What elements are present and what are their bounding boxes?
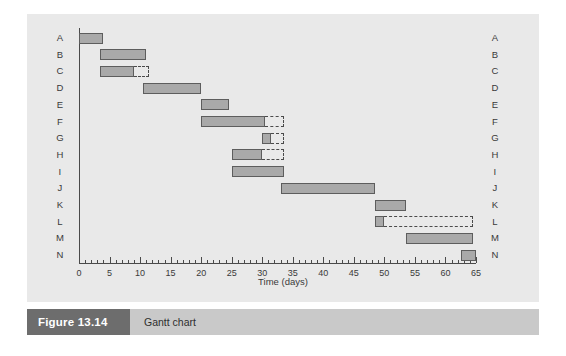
x-tick-minor bbox=[409, 260, 410, 264]
y-axis-line bbox=[79, 28, 80, 263]
x-tick-label: 15 bbox=[160, 268, 182, 278]
x-tick-major bbox=[354, 257, 355, 263]
x-tick-major bbox=[79, 257, 80, 263]
x-tick-minor bbox=[189, 260, 190, 264]
task-float-g bbox=[271, 133, 283, 144]
x-tick-minor bbox=[360, 260, 361, 264]
x-tick-label: 55 bbox=[404, 268, 426, 278]
task-bar-b[interactable] bbox=[100, 49, 146, 60]
x-tick-minor bbox=[348, 260, 349, 264]
x-tick-minor bbox=[299, 260, 300, 264]
x-tick-minor bbox=[128, 260, 129, 264]
x-tick-minor bbox=[85, 260, 86, 264]
task-bar-g[interactable] bbox=[262, 133, 271, 144]
task-label-left-l: L bbox=[53, 217, 67, 227]
figure-caption-strip: Figure 13.14 Gantt chart bbox=[27, 309, 539, 335]
x-tick-minor bbox=[256, 260, 257, 264]
task-label-right-m: M bbox=[488, 233, 502, 243]
x-tick-minor bbox=[244, 260, 245, 264]
x-tick-minor bbox=[329, 260, 330, 264]
figure-panel: 05101520253035404550556065 ABCDEFGHIJKLM… bbox=[27, 14, 539, 302]
x-tick-minor bbox=[421, 260, 422, 264]
task-label-right-f: F bbox=[488, 117, 502, 127]
x-tick-minor bbox=[342, 260, 343, 264]
x-tick-minor bbox=[281, 260, 282, 264]
x-tick-minor bbox=[165, 260, 166, 264]
task-label-left-m: M bbox=[53, 233, 67, 243]
x-tick-minor bbox=[97, 260, 98, 264]
x-tick-minor bbox=[390, 260, 391, 264]
x-tick-label: 0 bbox=[68, 268, 90, 278]
task-label-right-n: N bbox=[488, 250, 502, 260]
x-tick-minor bbox=[183, 260, 184, 264]
x-tick-minor bbox=[195, 260, 196, 264]
task-bar-a[interactable] bbox=[79, 33, 103, 44]
x-tick-minor bbox=[103, 260, 104, 264]
figure-title-text: Gantt chart bbox=[144, 316, 196, 328]
task-label-left-g: G bbox=[53, 133, 67, 143]
task-label-right-h: H bbox=[488, 150, 502, 160]
task-bar-e[interactable] bbox=[201, 99, 228, 110]
x-tick-major bbox=[140, 257, 141, 263]
x-tick-minor bbox=[213, 260, 214, 264]
x-axis-title: Time (days) bbox=[183, 276, 383, 287]
x-tick-minor bbox=[397, 260, 398, 264]
x-tick-minor bbox=[287, 260, 288, 264]
task-bar-j[interactable] bbox=[281, 183, 376, 194]
x-tick-minor bbox=[134, 260, 135, 264]
x-tick-minor bbox=[122, 260, 123, 264]
figure-title-box: Gantt chart bbox=[130, 309, 539, 335]
x-tick-minor bbox=[336, 260, 337, 264]
task-bar-c[interactable] bbox=[100, 66, 134, 77]
task-label-right-b: B bbox=[488, 50, 502, 60]
x-tick-label: 60 bbox=[434, 268, 456, 278]
x-tick-minor bbox=[305, 260, 306, 264]
task-label-left-d: D bbox=[53, 83, 67, 93]
x-tick-minor bbox=[152, 260, 153, 264]
task-bar-m[interactable] bbox=[406, 233, 473, 244]
task-label-left-h: H bbox=[53, 150, 67, 160]
x-tick-minor bbox=[238, 260, 239, 264]
task-float-h bbox=[262, 149, 283, 160]
task-label-left-j: J bbox=[53, 183, 67, 193]
x-tick-minor bbox=[452, 260, 453, 264]
task-label-right-e: E bbox=[488, 100, 502, 110]
figure-number-box: Figure 13.14 bbox=[27, 309, 130, 335]
task-bar-h[interactable] bbox=[232, 149, 263, 160]
task-label-right-l: L bbox=[488, 217, 502, 227]
task-float-c bbox=[134, 66, 149, 77]
x-tick-major bbox=[110, 257, 111, 263]
x-tick-major bbox=[445, 257, 446, 263]
x-tick-minor bbox=[268, 260, 269, 264]
task-bar-l[interactable] bbox=[375, 216, 384, 227]
task-bar-n[interactable] bbox=[461, 250, 476, 261]
task-label-right-i: I bbox=[488, 167, 502, 177]
x-tick-minor bbox=[366, 260, 367, 264]
task-label-right-d: D bbox=[488, 83, 502, 93]
x-tick-major bbox=[262, 257, 263, 263]
x-tick-major bbox=[201, 257, 202, 263]
x-tick-minor bbox=[226, 260, 227, 264]
task-bar-d[interactable] bbox=[143, 83, 201, 94]
task-label-right-c: C bbox=[488, 66, 502, 76]
figure-number-text: Figure 13.14 bbox=[38, 316, 108, 328]
task-bar-i[interactable] bbox=[232, 166, 284, 177]
x-tick-minor bbox=[250, 260, 251, 264]
x-tick-major bbox=[476, 257, 477, 263]
x-tick-label: 5 bbox=[99, 268, 121, 278]
x-tick-minor bbox=[207, 260, 208, 264]
task-bar-f[interactable] bbox=[201, 116, 265, 127]
task-float-l bbox=[384, 216, 473, 227]
x-tick-minor bbox=[158, 260, 159, 264]
gantt-chart-plot: 05101520253035404550556065 ABCDEFGHIJKLM… bbox=[27, 14, 539, 302]
x-tick-minor bbox=[91, 260, 92, 264]
task-bar-k[interactable] bbox=[375, 200, 406, 211]
x-tick-minor bbox=[219, 260, 220, 264]
x-tick-minor bbox=[439, 260, 440, 264]
x-tick-label: 10 bbox=[129, 268, 151, 278]
x-axis-line bbox=[79, 263, 476, 264]
x-tick-minor bbox=[433, 260, 434, 264]
x-tick-major bbox=[415, 257, 416, 263]
task-label-left-k: K bbox=[53, 200, 67, 210]
x-tick-minor bbox=[317, 260, 318, 264]
